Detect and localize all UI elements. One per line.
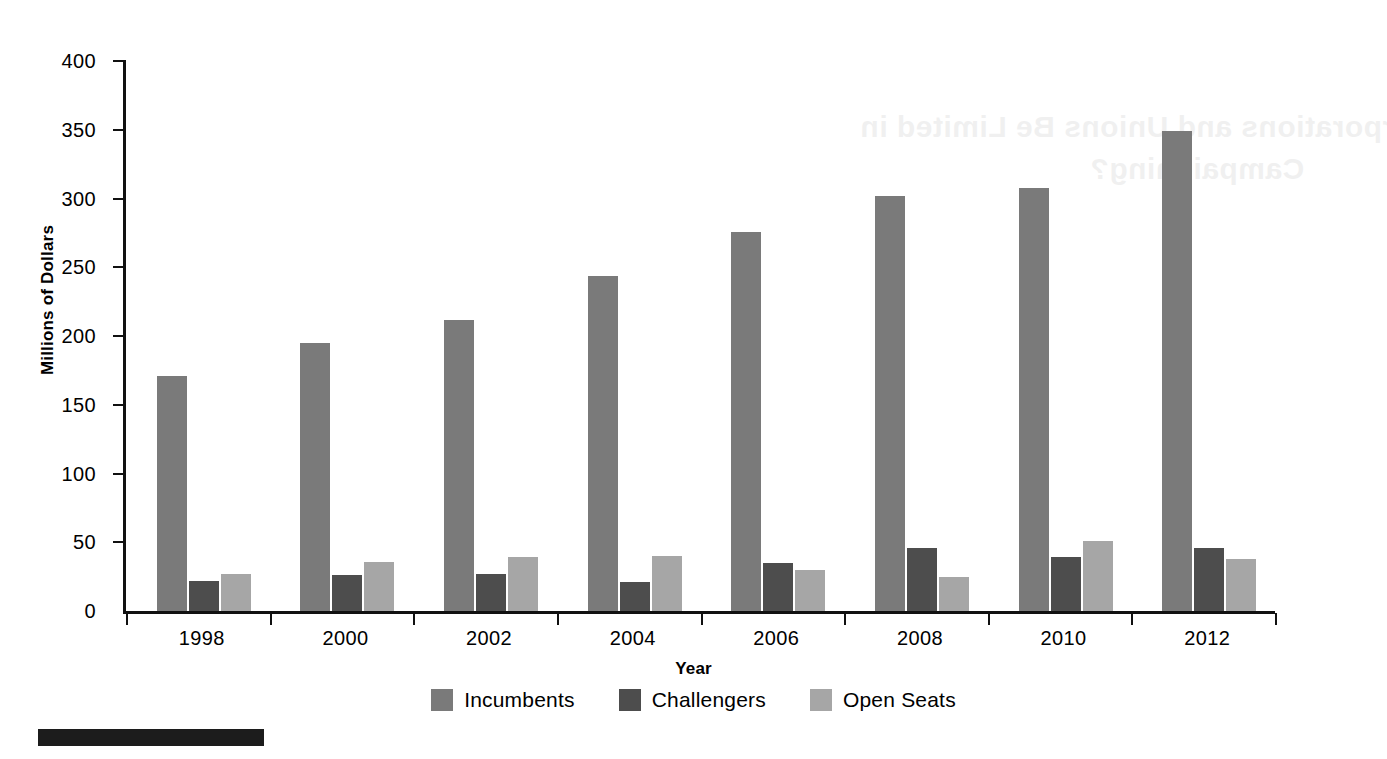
y-axis-tick-labels: 050100150200250300350400 xyxy=(0,0,96,640)
x-tick-label-2008: 2008 xyxy=(860,627,980,650)
x-axis-line xyxy=(123,611,1275,614)
legend-label: Incumbents xyxy=(464,688,575,712)
bar-open-seats-2000 xyxy=(364,562,394,612)
legend-item-incumbents: Incumbents xyxy=(431,688,575,712)
bar-challengers-1998 xyxy=(189,581,219,611)
chart-legend: IncumbentsChallengersOpen Seats xyxy=(0,688,1387,712)
bar-incumbents-2006 xyxy=(731,232,761,612)
x-tick-mark xyxy=(1275,613,1277,625)
bar-open-seats-2002 xyxy=(508,557,538,611)
y-tick-label: 350 xyxy=(0,118,96,141)
x-tick-label-2006: 2006 xyxy=(716,627,836,650)
page-bottom-black-mark xyxy=(38,729,264,746)
x-tick-mark xyxy=(844,613,846,625)
y-tick-label: 100 xyxy=(0,462,96,485)
legend-swatch-icon xyxy=(431,689,453,711)
bar-incumbents-2004 xyxy=(588,276,618,612)
x-tick-mark xyxy=(126,613,128,625)
bar-incumbents-2012 xyxy=(1162,131,1192,611)
legend-label: Challengers xyxy=(652,688,766,712)
bar-challengers-2000 xyxy=(332,575,362,611)
x-tick-label-2004: 2004 xyxy=(573,627,693,650)
x-tick-label-1998: 1998 xyxy=(142,627,262,650)
legend-swatch-icon xyxy=(619,689,641,711)
y-tick-label: 150 xyxy=(0,393,96,416)
bar-challengers-2010 xyxy=(1051,557,1081,611)
bar-group-2002 xyxy=(444,61,538,611)
x-tick-mark xyxy=(701,613,703,625)
bar-group-2004 xyxy=(588,61,682,611)
bar-open-seats-2006 xyxy=(795,570,825,611)
bars-container xyxy=(126,61,1275,611)
bar-group-2000 xyxy=(300,61,394,611)
x-axis-title: Year xyxy=(0,659,1387,679)
y-tick-label: 50 xyxy=(0,531,96,554)
bar-open-seats-1998 xyxy=(221,574,251,611)
bar-open-seats-2004 xyxy=(652,556,682,611)
x-tick-label-2000: 2000 xyxy=(285,627,405,650)
y-tick-label: 250 xyxy=(0,256,96,279)
y-tick-label: 300 xyxy=(0,187,96,210)
x-tick-label-2002: 2002 xyxy=(429,627,549,650)
x-tick-mark xyxy=(1131,613,1133,625)
x-tick-mark xyxy=(270,613,272,625)
bar-group-1998 xyxy=(157,61,251,611)
bar-open-seats-2012 xyxy=(1226,559,1256,611)
x-tick-mark xyxy=(557,613,559,625)
x-tick-mark xyxy=(988,613,990,625)
y-tick-label: 200 xyxy=(0,325,96,348)
legend-item-challengers: Challengers xyxy=(619,688,766,712)
bar-incumbents-1998 xyxy=(157,376,187,611)
bar-challengers-2004 xyxy=(620,582,650,611)
bar-incumbents-2002 xyxy=(444,320,474,612)
legend-label: Open Seats xyxy=(843,688,956,712)
bar-group-2006 xyxy=(731,61,825,611)
bar-open-seats-2010 xyxy=(1083,541,1113,611)
bar-challengers-2002 xyxy=(476,574,506,611)
bar-incumbents-2000 xyxy=(300,343,330,611)
bar-group-2008 xyxy=(875,61,969,611)
bar-incumbents-2010 xyxy=(1019,188,1049,612)
bar-group-2012 xyxy=(1162,61,1256,611)
legend-item-open-seats: Open Seats xyxy=(810,688,956,712)
bar-challengers-2008 xyxy=(907,548,937,611)
bar-chart-figure: Millions of Dollars 05010015020025030035… xyxy=(0,0,1387,759)
x-tick-mark xyxy=(413,613,415,625)
legend-swatch-icon xyxy=(810,689,832,711)
bar-challengers-2012 xyxy=(1194,548,1224,611)
bar-open-seats-2008 xyxy=(939,577,969,611)
bar-group-2010 xyxy=(1019,61,1113,611)
y-tick-label: 0 xyxy=(0,600,96,623)
y-tick-label: 400 xyxy=(0,50,96,73)
x-tick-label-2010: 2010 xyxy=(1004,627,1124,650)
x-tick-label-2012: 2012 xyxy=(1147,627,1267,650)
bar-challengers-2006 xyxy=(763,563,793,611)
plot-area: Millions of Dollars 05010015020025030035… xyxy=(0,0,1387,640)
bar-incumbents-2008 xyxy=(875,196,905,611)
